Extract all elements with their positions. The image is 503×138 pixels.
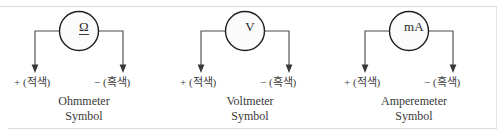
amperemeter-negative-wire	[428, 31, 453, 66]
ohmmeter-caption-line2: Symbol	[0, 109, 168, 124]
voltmeter-positive-arrowhead	[198, 65, 205, 74]
voltmeter-glyph: V	[166, 20, 334, 34]
amperemeter-negative-label: − (흑색)	[424, 76, 460, 89]
voltmeter-figure: V + (적색) − (흑색) Voltmeter Symbol	[166, 0, 334, 138]
voltmeter-negative-arrowhead	[286, 65, 293, 74]
ohmmeter-caption-line1: Ohmmeter	[58, 94, 109, 108]
ohmmeter-glyph: Ω	[0, 20, 168, 34]
voltmeter-caption-line1: Voltmeter	[226, 94, 273, 108]
amperemeter-caption-line1: Amperemeter	[381, 94, 447, 108]
ohmmeter-negative-wire	[98, 31, 123, 66]
ohmmeter-glyph-text: Ω	[79, 19, 89, 35]
voltmeter-negative-label: − (흑색)	[260, 76, 296, 89]
amperemeter-glyph-text: mA	[404, 19, 424, 34]
ohmmeter-positive-wire	[35, 31, 60, 66]
amperemeter-caption: Amperemeter Symbol	[330, 94, 498, 124]
amperemeter-positive-label: + (적색)	[344, 76, 380, 89]
voltmeter-positive-label: + (적색)	[180, 76, 216, 89]
voltmeter-negative-wire	[264, 31, 289, 66]
ohmmeter-positive-label: + (적색)	[14, 76, 50, 89]
amperemeter-caption-line2: Symbol	[330, 109, 498, 124]
ohmmeter-positive-arrowhead	[32, 65, 39, 74]
voltmeter-positive-wire	[201, 31, 226, 66]
amperemeter-terminal-labels: + (적색) − (흑색)	[330, 76, 498, 90]
amperemeter-figure: mA + (적색) − (흑색) Amperemeter Symbol	[330, 0, 498, 138]
ohmmeter-terminal-labels: + (적색) − (흑색)	[0, 76, 168, 90]
amperemeter-negative-arrowhead	[450, 65, 457, 74]
meter-symbols-figure: Ω + (적색) − (흑색) Ohmmeter Symbol V + (적색)…	[0, 0, 503, 138]
amperemeter-glyph: mA	[330, 20, 498, 34]
voltmeter-glyph-text: V	[245, 19, 255, 34]
amperemeter-positive-wire	[365, 31, 390, 66]
amperemeter-positive-arrowhead	[362, 65, 369, 74]
ohmmeter-figure: Ω + (적색) − (흑색) Ohmmeter Symbol	[0, 0, 168, 138]
voltmeter-caption: Voltmeter Symbol	[166, 94, 334, 124]
ohmmeter-caption: Ohmmeter Symbol	[0, 94, 168, 124]
voltmeter-terminal-labels: + (적색) − (흑색)	[166, 76, 334, 90]
ohmmeter-negative-arrowhead	[120, 65, 127, 74]
ohmmeter-negative-label: − (흑색)	[94, 76, 130, 89]
voltmeter-caption-line2: Symbol	[166, 109, 334, 124]
